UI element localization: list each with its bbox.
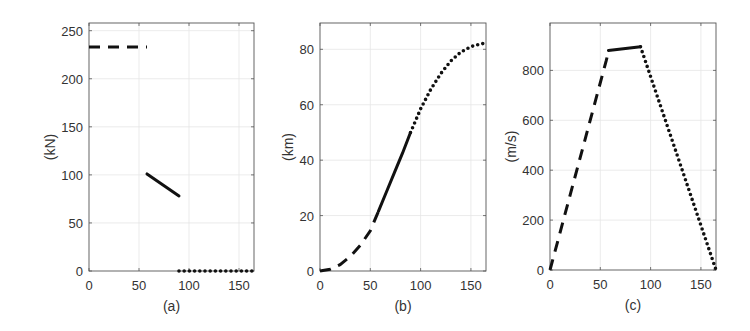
panel-caption: (a) (163, 298, 180, 314)
series-line-phase-2 (608, 47, 640, 51)
y-tick-label: 100 (61, 168, 83, 183)
x-tick-label: 150 (228, 278, 250, 293)
y-tick-label: 20 (300, 209, 314, 224)
x-tick-label: 150 (460, 278, 482, 293)
y-tick-label: 40 (300, 153, 314, 168)
y-tick-label: 60 (300, 98, 314, 113)
axes-frame (89, 23, 254, 271)
series-line-phase-1 (320, 211, 378, 271)
series-line-phase-1 (550, 52, 608, 270)
x-tick-label: 50 (363, 278, 377, 293)
y-tick-label: 600 (522, 113, 544, 128)
figure-three-panel-chart: 050100150050100150200250(kN)(a) 05010015… (0, 0, 750, 331)
panel-caption: (b) (394, 298, 411, 314)
y-tick-label: 80 (300, 42, 314, 57)
series-line-phase-2 (147, 174, 179, 196)
y-tick-label: 250 (61, 24, 83, 39)
y-tick-label: 200 (61, 72, 83, 87)
y-tick-label: 800 (522, 63, 544, 78)
series-line-phase-3 (411, 43, 487, 132)
axes-frame (550, 23, 716, 270)
y-axis-label: (m/s) (503, 131, 519, 163)
axes-frame (320, 23, 486, 271)
y-axis-label: (kN) (42, 134, 58, 160)
y-tick-label: 0 (307, 264, 314, 279)
y-tick-label: 50 (69, 216, 83, 231)
panel-c-velocity-chart: 0501001500200400600800(m/s)(c) (503, 23, 717, 313)
x-tick-label: 0 (316, 278, 323, 293)
x-tick-label: 50 (132, 278, 146, 293)
series-line-phase-2 (378, 133, 410, 212)
y-tick-label: 200 (522, 213, 544, 228)
y-tick-label: 400 (522, 163, 544, 178)
y-tick-label: 0 (537, 263, 544, 278)
panel-a-force-chart: 050100150050100150200250(kN)(a) (42, 23, 255, 314)
x-tick-label: 100 (410, 278, 432, 293)
y-tick-label: 0 (76, 264, 83, 279)
x-tick-label: 150 (690, 277, 712, 292)
panel-b-distance-chart: 050100150020406080(km)(b) (280, 23, 486, 314)
x-tick-label: 100 (178, 278, 200, 293)
y-tick-label: 150 (61, 120, 83, 135)
panel-caption: (c) (625, 297, 641, 313)
x-tick-label: 0 (546, 277, 553, 292)
series-line-phase-3 (641, 47, 717, 270)
x-tick-label: 0 (85, 278, 92, 293)
y-axis-label: (km) (280, 133, 296, 161)
x-tick-label: 50 (593, 277, 607, 292)
x-tick-label: 100 (640, 277, 662, 292)
